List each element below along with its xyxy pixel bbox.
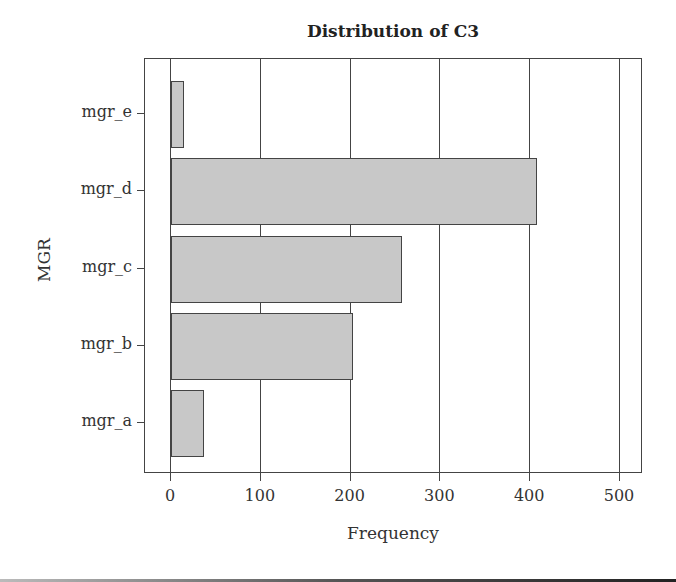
x-tick bbox=[260, 473, 261, 481]
bar-mgr_c bbox=[171, 236, 402, 303]
x-tick bbox=[350, 473, 351, 481]
x-tick-label: 400 bbox=[499, 486, 559, 505]
gridline bbox=[619, 59, 620, 472]
x-tick-label: 200 bbox=[320, 486, 380, 505]
y-axis-title: MGR bbox=[34, 230, 54, 290]
x-tick bbox=[619, 473, 620, 481]
bar-mgr_e bbox=[171, 81, 184, 148]
y-tick bbox=[137, 190, 144, 191]
bar-mgr_d bbox=[171, 158, 537, 225]
y-tick bbox=[137, 422, 144, 423]
bar-mgr_a bbox=[171, 390, 204, 457]
bar-mgr_b bbox=[171, 313, 353, 380]
x-tick-label: 0 bbox=[140, 486, 200, 505]
y-tick-label: mgr_e bbox=[40, 102, 132, 121]
x-tick-label: 300 bbox=[409, 486, 469, 505]
y-tick-label: mgr_b bbox=[40, 334, 132, 353]
x-axis-title: Frequency bbox=[144, 523, 642, 543]
y-tick-label: mgr_a bbox=[40, 411, 132, 430]
y-tick bbox=[137, 345, 144, 346]
gridline bbox=[529, 59, 530, 472]
gridline bbox=[439, 59, 440, 472]
y-tick-label: mgr_d bbox=[40, 179, 132, 198]
chart-title: Distribution of C3 bbox=[0, 21, 676, 41]
x-tick bbox=[439, 473, 440, 481]
y-tick bbox=[137, 268, 144, 269]
y-tick bbox=[137, 113, 144, 114]
x-tick bbox=[529, 473, 530, 481]
x-tick-label: 500 bbox=[589, 486, 649, 505]
plot-area bbox=[144, 58, 642, 473]
x-tick-label: 100 bbox=[230, 486, 290, 505]
x-tick bbox=[170, 473, 171, 481]
